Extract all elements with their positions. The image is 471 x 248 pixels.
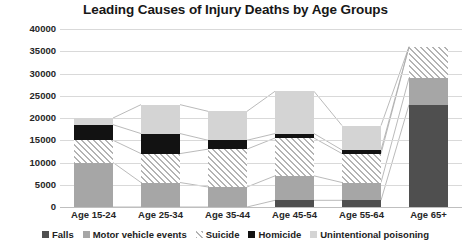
legend-item-motor-vehicle-events[interactable]: Motor vehicle events [83, 229, 187, 240]
bar-segment-suicide[interactable] [141, 154, 180, 183]
connector-line [180, 149, 208, 153]
legend-item-suicide[interactable]: Suicide [196, 229, 240, 240]
bar-stack-age-65-[interactable] [409, 29, 448, 207]
bar-segment-homicide[interactable] [208, 140, 247, 149]
bar-segment-motor-vehicle-events[interactable] [342, 183, 381, 201]
plot-area [60, 29, 462, 207]
bar-segment-unintentional-poisoning[interactable] [208, 111, 247, 140]
bar-segment-unintentional-poisoning[interactable] [342, 126, 381, 150]
x-axis-tick-label: Age 65+ [395, 209, 462, 221]
connector-line [247, 200, 275, 207]
connector-line [381, 78, 409, 183]
bar-segment-homicide[interactable] [74, 125, 113, 141]
bar-segment-motor-vehicle-events[interactable] [141, 183, 180, 207]
x-axis-tick-label: Age 55-64 [328, 209, 395, 221]
connector-line [113, 140, 141, 153]
gridline [60, 185, 462, 186]
x-axis-tick-label: Age 15-24 [60, 209, 127, 221]
bar-segment-homicide[interactable] [275, 134, 314, 138]
bar-segment-motor-vehicle-events[interactable] [275, 176, 314, 200]
y-axis-tick-label: 35000 [4, 46, 56, 56]
bar-segment-homicide[interactable] [342, 150, 381, 154]
gridline [60, 163, 462, 164]
bar-segment-falls[interactable] [409, 105, 448, 207]
bar-segment-suicide[interactable] [275, 138, 314, 176]
legend-item-label: Homicide [258, 229, 301, 240]
bar-stack-age-55-64[interactable] [342, 29, 381, 207]
chart-title: Leading Causes of Injury Deaths by Age G… [0, 2, 471, 18]
bar-segment-falls[interactable] [342, 200, 381, 207]
gridline [60, 140, 462, 141]
bar-segment-suicide[interactable] [208, 149, 247, 187]
legend-swatch-icon [42, 231, 49, 238]
x-axis-tick-label: Age 45-54 [261, 209, 328, 221]
connector-line [381, 47, 409, 150]
bar-segment-homicide[interactable] [141, 134, 180, 154]
chart-legend: FallsMotor vehicle eventsSuicideHomicide… [0, 229, 471, 240]
gridline [60, 207, 462, 208]
bar-segment-motor-vehicle-events[interactable] [208, 187, 247, 207]
y-axis-tick-label: 40000 [4, 24, 56, 34]
gridline [60, 118, 462, 119]
legend-swatch-icon [196, 231, 203, 238]
connector-line [113, 105, 141, 118]
bar-segment-suicide[interactable] [74, 140, 113, 162]
legend-item-label: Suicide [206, 229, 240, 240]
x-axis-tick-label: Age 35-44 [194, 209, 261, 221]
y-axis-tick-label: 30000 [4, 69, 56, 79]
y-axis-tick-label: 5000 [4, 180, 56, 190]
legend-item-homicide[interactable]: Homicide [248, 229, 301, 240]
y-axis-tick-label: 20000 [4, 113, 56, 123]
legend-item-label: Unintentional poisoning [320, 229, 429, 240]
legend-item-label: Falls [52, 229, 74, 240]
connector-line [381, 47, 409, 126]
connector-line [180, 105, 208, 112]
legend-item-unintentional-poisoning[interactable]: Unintentional poisoning [310, 229, 429, 240]
legend-item-label: Motor vehicle events [93, 229, 187, 240]
connector-line [314, 134, 342, 150]
y-axis-tick-label: 15000 [4, 135, 56, 145]
gridline [60, 51, 462, 52]
x-axis-tick-label: Age 25-34 [127, 209, 194, 221]
bar-segment-falls[interactable] [275, 200, 314, 207]
y-axis: 4000035000300002500020000150001000050000 [0, 0, 56, 248]
bar-segment-motor-vehicle-events[interactable] [74, 163, 113, 208]
gridline [60, 96, 462, 97]
connector-line [381, 47, 409, 154]
bar-stack-age-35-44[interactable] [208, 29, 247, 207]
bar-segment-unintentional-poisoning[interactable] [74, 118, 113, 125]
bar-segment-unintentional-poisoning[interactable] [141, 105, 180, 134]
y-axis-tick-label: 25000 [4, 91, 56, 101]
bar-segment-suicide[interactable] [409, 47, 448, 78]
legend-item-falls[interactable]: Falls [42, 229, 74, 240]
bar-segment-suicide[interactable] [342, 154, 381, 183]
legend-swatch-icon [248, 231, 255, 238]
bar-segment-unintentional-poisoning[interactable] [275, 91, 314, 133]
legend-swatch-icon [83, 231, 90, 238]
y-axis-tick-label: 0 [4, 202, 56, 212]
connector-line [113, 125, 141, 134]
bar-stack-age-25-34[interactable] [141, 29, 180, 207]
connector-line [113, 163, 141, 183]
connector-line [180, 134, 208, 141]
bar-segment-motor-vehicle-events[interactable] [409, 78, 448, 105]
gridline [60, 74, 462, 75]
legend-swatch-icon [310, 231, 317, 238]
bar-stack-age-45-54[interactable] [275, 29, 314, 207]
y-axis-tick-label: 10000 [4, 158, 56, 168]
connector-line [314, 176, 342, 183]
chart-container: Leading Causes of Injury Deaths by Age G… [0, 0, 471, 248]
connector-line [247, 134, 275, 141]
connector-line [381, 105, 409, 201]
gridline [60, 29, 462, 30]
bar-stack-age-15-24[interactable] [74, 29, 113, 207]
x-axis: Age 15-24Age 25-34Age 35-44Age 45-54Age … [60, 209, 462, 225]
connector-line [247, 91, 275, 111]
